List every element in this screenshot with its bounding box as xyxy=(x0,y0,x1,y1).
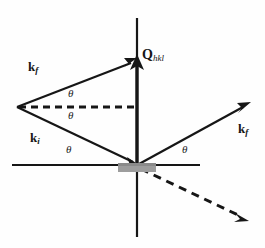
q-subscript: hkl xyxy=(153,53,164,63)
sample-block-shadow xyxy=(118,163,156,166)
k-i-label: ki xyxy=(30,131,40,146)
diagram-canvas xyxy=(0,0,265,248)
q-symbol: Q xyxy=(142,47,153,62)
theta-label-1: θ xyxy=(68,88,73,99)
k-f-upper-subscript: f xyxy=(35,65,38,75)
scattering-geometry-figure: kf ki kf Qhkl θ θ θ θ xyxy=(0,0,265,248)
k-f-upper-label: kf xyxy=(28,60,38,75)
k-i-subscript: i xyxy=(37,136,40,146)
k-f-right-subscript: f xyxy=(245,127,248,137)
theta-label-2: θ xyxy=(68,110,73,121)
k-f-right-vector xyxy=(139,102,251,164)
transmitted-beam-dashed xyxy=(141,169,249,222)
k-f-right-label: kf xyxy=(238,122,248,137)
theta-label-3: θ xyxy=(66,144,71,155)
theta-label-4: θ xyxy=(182,144,187,155)
q-hkl-label: Qhkl xyxy=(142,48,164,63)
